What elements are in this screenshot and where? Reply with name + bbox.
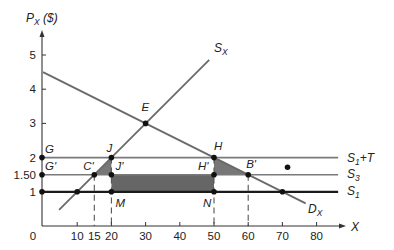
x-tick-label: 40 xyxy=(173,230,186,242)
curve-label-demand: DX xyxy=(308,202,323,218)
point-label: J xyxy=(105,142,112,154)
y-axis-arrow-icon xyxy=(40,30,45,37)
curve-label-s1-plus-t: S1+T xyxy=(347,151,376,167)
point-C-prime xyxy=(92,172,98,178)
x-axis-arrow-icon xyxy=(339,224,346,229)
point-G xyxy=(39,155,45,161)
point-N xyxy=(211,189,217,195)
point-label: H xyxy=(214,140,223,152)
point-J-prime xyxy=(109,172,115,178)
point-label: C' xyxy=(83,160,94,172)
point-label: N xyxy=(203,197,212,209)
point-label: M xyxy=(115,197,125,209)
x-tick-label: 60 xyxy=(242,230,255,242)
point-label: J' xyxy=(114,160,124,172)
point-H-prime xyxy=(211,172,217,178)
curve-label-supply: SX xyxy=(214,41,228,57)
tariff-supply-demand-diagram: 010152030405060708011.502345PX ($)X DXSX… xyxy=(0,0,394,250)
point-J xyxy=(109,155,115,161)
x-tick-label: 0 xyxy=(30,230,36,242)
x-tick-label: 30 xyxy=(139,230,152,242)
point-marker xyxy=(280,189,286,195)
y-tick-label: 4 xyxy=(30,83,37,95)
curve-label-s3: S3 xyxy=(347,167,360,183)
y-tick-label: 1.50 xyxy=(14,169,36,181)
x-tick-label: 70 xyxy=(276,230,289,242)
point-H xyxy=(211,155,217,161)
curve-label-s1: S1 xyxy=(347,184,360,200)
x-tick-label: 50 xyxy=(208,230,221,242)
point-G-prime xyxy=(39,172,45,178)
point-label: G' xyxy=(45,160,57,172)
x-axis-title: X xyxy=(350,220,360,234)
y-tick-label: 5 xyxy=(30,49,36,61)
point-M xyxy=(109,189,115,195)
y-tick-label: 2 xyxy=(30,152,36,164)
point-marker xyxy=(285,164,291,170)
y-tick-label: 3 xyxy=(30,117,36,129)
shaded-rectangle-j-h-n-m xyxy=(111,175,214,192)
point-label: H' xyxy=(198,160,209,172)
x-tick-label: 15 xyxy=(88,230,101,242)
point-label: B' xyxy=(246,158,257,170)
x-tick-label: 80 xyxy=(310,230,323,242)
point-label: E xyxy=(142,101,150,113)
x-tick-label: 20 xyxy=(105,230,118,242)
point-E xyxy=(143,121,149,127)
point-marker xyxy=(74,189,80,195)
chart-canvas: 010152030405060708011.502345PX ($)X DXSX… xyxy=(0,0,394,250)
y-axis-title: PX ($) xyxy=(26,11,58,27)
point-B-prime xyxy=(245,172,251,178)
point-marker xyxy=(39,189,45,195)
x-tick-label: 10 xyxy=(71,230,84,242)
point-label: G xyxy=(45,143,54,155)
y-tick-label: 1 xyxy=(30,186,36,198)
